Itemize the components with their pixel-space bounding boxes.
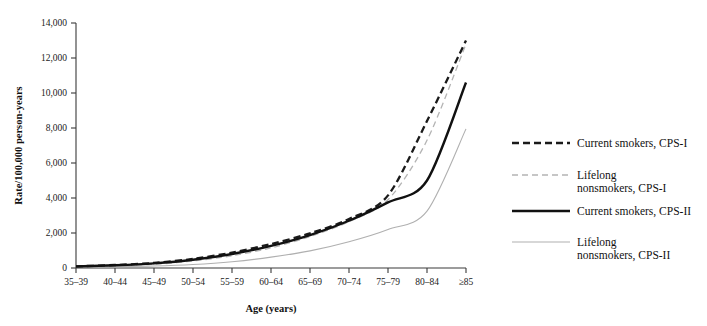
y-tick-label: 2,000 [46,228,68,238]
x-tick-label: 40–44 [103,277,127,287]
legend-label-current-smokers-cps-ii: Current smokers, CPS-II [577,205,691,218]
x-tick-label: 45–49 [142,277,166,287]
series-line-lifelong-nonsmokers-cps-i [76,44,466,267]
x-axis-title: Age (years) [245,303,297,315]
legend-label-lifelong-nonsmokers-cps-i-line2: nonsmokers, CPS-I [577,182,667,195]
y-axis-title: Rate/100,000 person-years [13,86,24,204]
chart-figure: 02,0004,0006,0008,00010,00012,00014,0003… [0,0,707,326]
legend-label-lifelong-nonsmokers-cps-i: Lifelong [577,169,617,182]
x-tick-label: 80–84 [415,277,439,287]
y-tick-label: 12,000 [41,53,67,63]
x-tick-label: 65–69 [298,277,322,287]
y-tick-label: 4,000 [46,193,68,203]
line-chart: 02,0004,0006,0008,00010,00012,00014,0003… [0,0,707,326]
legend-label-lifelong-nonsmokers-cps-ii-line2: nonsmokers, CPS-II [577,249,670,262]
x-tick-label: 60–64 [259,277,283,287]
y-tick-label: 8,000 [46,123,68,133]
series-line-current-smokers-cps-i [76,41,466,267]
x-tick-label: 50–54 [181,277,205,287]
legend-label-current-smokers-cps-i: Current smokers, CPS-I [577,137,687,150]
x-tick-label: 55–59 [220,277,244,287]
y-tick-label: 10,000 [41,88,67,98]
legend-label-lifelong-nonsmokers-cps-ii: Lifelong [577,236,617,249]
y-tick-label: 0 [62,263,67,273]
x-tick-label: 35–39 [64,277,88,287]
y-tick-label: 14,000 [41,18,67,28]
x-tick-label: 70–74 [337,277,361,287]
x-tick-label: 75–79 [376,277,400,287]
y-tick-label: 6,000 [46,158,68,168]
x-tick-label: ≥85 [459,277,474,287]
